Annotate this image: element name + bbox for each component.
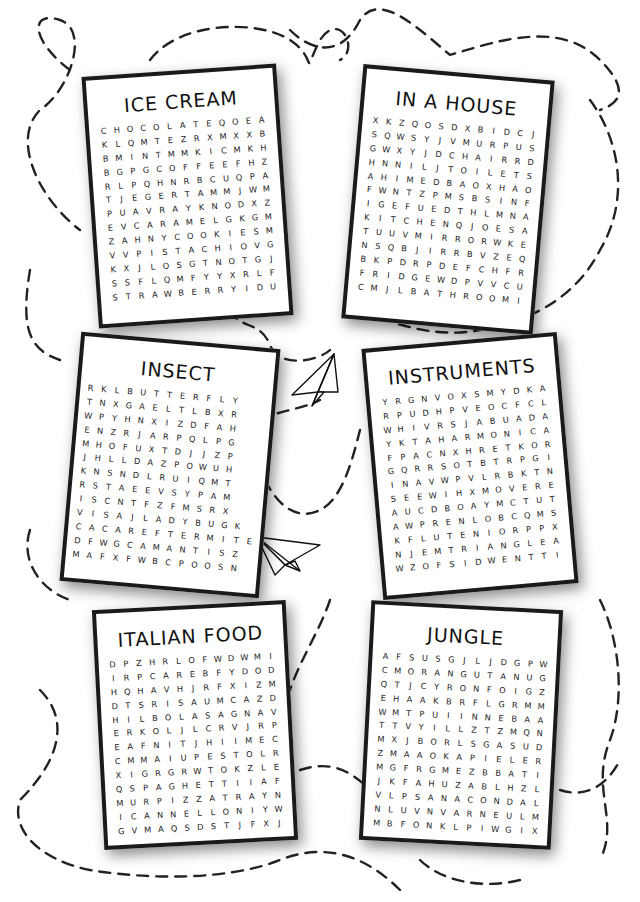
grid-letter: B (463, 249, 477, 261)
grid-letter: A (389, 521, 403, 533)
grid-letter: O (521, 184, 535, 196)
grid-letter: T (444, 163, 458, 175)
grid-letter: B (123, 386, 137, 398)
grid-letter: T (537, 550, 551, 562)
grid-letter: O (485, 292, 499, 304)
grid-letter: R (540, 438, 554, 450)
grid-letter: V (160, 684, 174, 695)
grid-letter: T (388, 721, 402, 732)
grid-letter: M (411, 230, 425, 242)
grid-letter (236, 451, 250, 463)
grid-letter: P (415, 708, 429, 719)
grid-letter: T (176, 739, 190, 750)
grid-letter: G (510, 538, 524, 550)
grid-letter: M (259, 183, 273, 194)
grid-letter: P (428, 190, 442, 202)
grid-letter: Q (124, 137, 138, 148)
grid-letter: M (149, 541, 163, 553)
grid-letter: C (378, 664, 392, 675)
grid-letter: U (523, 672, 537, 683)
grid-letter: G (510, 658, 524, 669)
grid-letter: P (392, 409, 406, 421)
grid-letter: R (84, 382, 98, 394)
grid-letter: G (457, 669, 471, 680)
puzzle-title: ICE CREAM (95, 84, 267, 118)
grid-letter: M (178, 147, 192, 158)
grid-letter: V (105, 250, 119, 261)
grid-letter: B (503, 469, 517, 481)
grid-letter: A (136, 540, 150, 552)
grid-letter: N (175, 544, 189, 556)
grid-letter: R (135, 290, 149, 301)
puzzle-title: ITALIAN FOOD (105, 621, 276, 652)
grid-letter: I (531, 770, 545, 781)
grid-letter: G (165, 781, 179, 792)
grid-letter: W (135, 554, 149, 566)
grid-letter: D (532, 742, 546, 753)
grid-letter: M (529, 811, 543, 822)
grid-letter: I (482, 527, 496, 539)
grid-letter: B (491, 768, 505, 779)
grid-letter: K (436, 821, 450, 832)
grid-letter: Y (227, 283, 241, 294)
grid-letter: O (453, 502, 467, 514)
grid-letter: W (380, 424, 394, 436)
grid-letter: D (395, 270, 409, 282)
grid-letter: A (118, 235, 132, 246)
grid-letter: C (100, 495, 114, 507)
grid-letter: J (133, 262, 147, 273)
grid-letter: S (214, 561, 228, 573)
grid-letter: Z (406, 562, 420, 574)
grid-letter: O (183, 231, 197, 242)
grid-letter: Y (430, 681, 444, 692)
grid-letter: R (269, 748, 283, 759)
grid-letter: I (125, 151, 139, 162)
grid-letter: R (477, 236, 491, 248)
grid-letter: G (404, 394, 418, 406)
grid-letter: I (407, 422, 421, 434)
grid-letter (244, 522, 258, 534)
grid-letter: O (444, 391, 458, 403)
grid-letter: A (135, 401, 149, 413)
grid-letter: V (425, 476, 439, 488)
grid-letter: L (104, 454, 118, 466)
grid-letter: C (524, 398, 538, 410)
grid-letter: P (132, 248, 146, 259)
grid-letter: B (397, 243, 411, 255)
grid-letter: V (250, 240, 264, 251)
grid-letter: O (237, 241, 251, 252)
grid-letter: U (131, 442, 145, 454)
grid-letter: P (535, 522, 549, 534)
grid-letter: M (208, 477, 222, 489)
grid-letter: K (385, 776, 399, 787)
grid-letter: C (422, 449, 436, 461)
grid-letter: A (538, 410, 552, 422)
grid-letter: D (165, 515, 179, 527)
grid-letter: M (493, 209, 507, 221)
grid-letter: S (386, 493, 400, 505)
grid-letter: E (471, 402, 485, 414)
grid-letter: V (398, 229, 412, 241)
grid-letter: O (200, 560, 214, 572)
grid-letter: D (440, 205, 454, 217)
grid-letter: D (171, 446, 185, 458)
grid-letter: R (455, 696, 469, 707)
grid-letter: L (483, 167, 497, 179)
grid-letter: R (460, 431, 474, 443)
grid-letter: W (394, 131, 408, 143)
grid-letter: P (445, 405, 459, 417)
grid-letter: M (533, 509, 547, 521)
grid-letter: P (515, 454, 529, 466)
grid-letter: M (367, 282, 381, 294)
grid-letter: B (148, 712, 162, 723)
grid-letter: P (211, 435, 225, 447)
grid-letter: K (235, 213, 249, 224)
grid-letter: J (197, 448, 211, 460)
grid-letter: W (434, 274, 448, 286)
grid-letter: T (204, 765, 218, 776)
grid-letter (250, 453, 264, 465)
grid-letter: R (433, 420, 447, 432)
grid-letter: S (172, 259, 186, 270)
grid-letter: D (266, 692, 280, 703)
grid-letter: F (403, 534, 417, 546)
